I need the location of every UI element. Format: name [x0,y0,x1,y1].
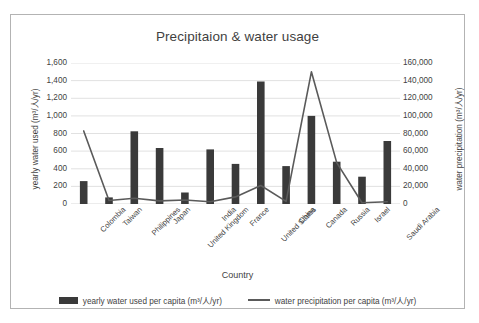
y-axis-left-ticks: 02004006008001,0001,2001,4001,600 [27,63,67,204]
y-axis-left-tick-label: 200 [53,182,67,190]
x-axis-tick-label: France [247,205,270,228]
legend-item-bar-series: yearly water used per capita (m³/人/yr) [59,294,222,306]
bar [384,141,392,204]
y-axis-right-tick-label: 60,000 [403,147,428,155]
y-axis-right-tick-label: 0 [403,200,408,208]
y-axis-left-tick-label: 1,400 [47,77,68,85]
x-axis-tick-label: Russia [348,205,371,228]
y-axis-left-tick-label: 1,000 [47,112,68,120]
legend-label-bar-series: yearly water used per capita (m³/人/yr) [83,294,222,306]
bar [308,116,316,204]
x-axis-tick-label: Israel [372,205,392,225]
y-axis-right-tick-label: 40,000 [403,165,428,173]
y-axis-left-tick-label: 1,600 [47,59,68,67]
y-axis-right-tick-label: 80,000 [403,130,428,138]
y-axis-right-tick-label: 100,000 [403,112,433,120]
chart-frame: Precipitaion & water usage yearly water … [10,14,465,309]
bar [181,193,189,205]
bar [80,181,88,204]
y-axis-left-tick-label: 0 [62,200,67,208]
y-axis-left-tick-label: 600 [53,147,67,155]
y-axis-right-ticks: 020,00040,00060,00080,000100,000120,0001… [403,63,451,204]
legend-label-line-series: water precipitation per capita (m³/人/yr) [275,294,416,306]
x-axis-tick-label: Saudi Arabia [405,205,442,242]
bar-series-swatch-icon [59,297,78,304]
line-series-swatch-icon [248,299,270,301]
y-axis-left-tick-label: 800 [53,130,67,138]
y-axis-right-tick-label: 140,000 [403,77,433,85]
bar [206,149,214,204]
y-axis-right-tick-label: 20,000 [403,182,428,190]
y-axis-left-tick-label: 400 [53,165,67,173]
legend-item-line-series: water precipitation per capita (m³/人/yr) [248,294,416,306]
y-axis-right-tick-label: 120,000 [403,94,433,102]
x-axis-title: Country [11,270,464,280]
y-axis-left-tick-label: 1,200 [47,94,68,102]
y-axis-right-title: water precipitation (m³/人/yr) [452,64,464,214]
bar [131,131,139,204]
chart-legend: yearly water used per capita (m³/人/yr) w… [11,294,464,306]
x-axis-tick-label: Canada [324,205,349,230]
bar [156,148,164,204]
x-axis-tick-label: China [297,205,317,225]
y-axis-right-tick-label: 160,000 [403,59,433,67]
plot-area [71,63,400,204]
x-axis-category-labels: ColombiaTaiwanPhilippinesJapanUnited Kin… [71,205,400,267]
plot-svg [71,63,400,204]
chart-title: Precipitaion & water usage [11,29,464,44]
